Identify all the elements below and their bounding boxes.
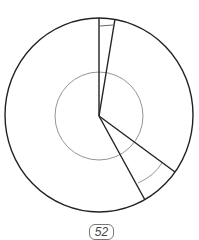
lower-right-wedge — [99, 116, 175, 200]
top-narrow-wedge — [99, 18, 115, 116]
circle-wedge-diagram — [0, 0, 199, 240]
page-number-label: 52 — [89, 224, 114, 240]
